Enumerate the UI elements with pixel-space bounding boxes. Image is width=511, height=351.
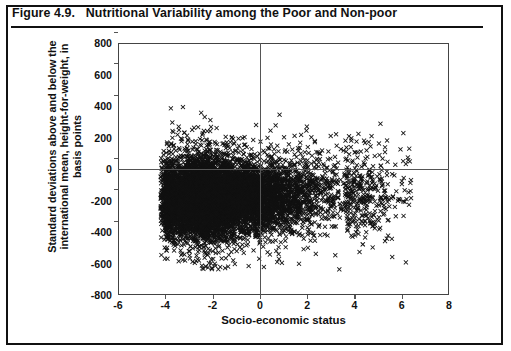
y-tick-mark: [114, 189, 118, 190]
x-tick-label: 4: [339, 299, 369, 311]
zero-horizontal-reference-line: [118, 169, 449, 170]
x-axis-tick-labels: -6-4-202468: [118, 295, 449, 315]
x-tick-mark: [260, 295, 261, 299]
x-tick-mark: [354, 295, 355, 299]
x-tick-mark: [213, 295, 214, 299]
y-axis-title-text: Standard deviations above and below thei…: [46, 22, 83, 272]
x-tick-label: 0: [245, 299, 275, 311]
x-tick-mark: [307, 295, 308, 299]
x-tick-label: 6: [387, 299, 417, 311]
x-tick-label: 8: [434, 299, 464, 311]
x-tick-label: -2: [198, 299, 228, 311]
x-tick-mark: [402, 295, 403, 299]
zero-vertical-reference-line: [260, 43, 261, 295]
y-tick-mark: [114, 95, 118, 96]
x-tick-label: -6: [103, 299, 133, 311]
y-axis-title: Standard deviations above and below thei…: [46, 22, 83, 272]
y-tick-mark: [114, 32, 118, 33]
y-tick-mark: [114, 158, 118, 159]
x-tick-label: -4: [150, 299, 180, 311]
x-tick-label: 2: [292, 299, 322, 311]
y-tick-mark: [114, 221, 118, 222]
y-tick-mark: [114, 63, 118, 64]
x-tick-mark: [165, 295, 166, 299]
x-axis-title: Socio-economic status: [118, 314, 449, 326]
chart-plot-area: -800-600-400-2000200400600800 -6-4-20246…: [0, 0, 497, 340]
